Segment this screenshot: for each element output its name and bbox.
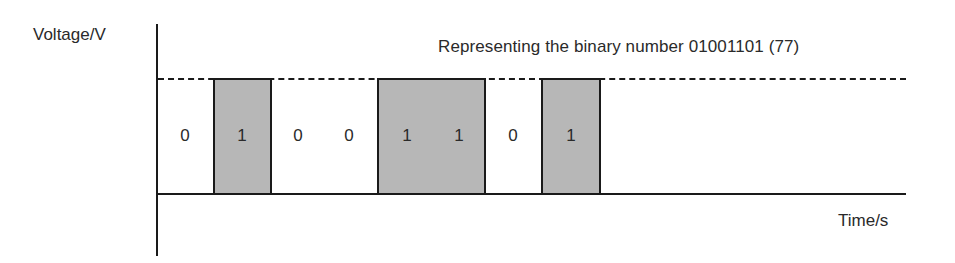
- bit-label: 0: [180, 126, 189, 146]
- x-axis: [157, 193, 906, 195]
- y-axis: [156, 24, 158, 256]
- x-axis-label: Time/s: [838, 211, 888, 231]
- high-pulse-bits-4-5: [377, 78, 486, 194]
- bit-label: 0: [508, 126, 517, 146]
- bit-label: 1: [566, 126, 575, 146]
- bit-label: 0: [344, 126, 353, 146]
- diagram-title: Representing the binary number 01001101 …: [438, 37, 799, 57]
- bit-label: 1: [454, 126, 463, 146]
- bit-label: 1: [402, 126, 411, 146]
- y-axis-label: Voltage/V: [33, 25, 106, 45]
- bit-label: 0: [293, 126, 302, 146]
- bit-label: 1: [237, 126, 246, 146]
